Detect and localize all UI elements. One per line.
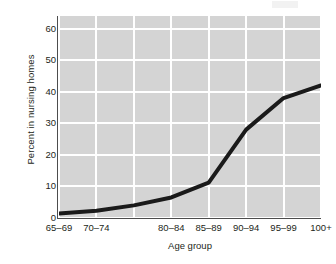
y-tick-label: 30 bbox=[28, 118, 56, 128]
y-tick-label: 20 bbox=[28, 150, 56, 160]
x-tick-label: 100+ bbox=[291, 222, 336, 234]
y-tick-label: 10 bbox=[28, 181, 56, 191]
x-axis-title: Age group bbox=[59, 240, 321, 251]
x-axis-tick-labels: 65–6970–7480–8485–8990–9495–99100+ bbox=[59, 222, 321, 238]
x-axis-line bbox=[57, 218, 321, 219]
chart-figure: Percent in nursing homes 0102030405060 6… bbox=[0, 0, 336, 264]
y-axis-line bbox=[57, 16, 58, 219]
y-tick-label: 50 bbox=[28, 55, 56, 65]
y-tick-label: 60 bbox=[28, 24, 56, 34]
line-series bbox=[59, 16, 321, 218]
scan-artifact bbox=[272, 1, 298, 8]
plot-area bbox=[59, 16, 321, 218]
x-tick-label: 70–74 bbox=[66, 222, 126, 234]
series-polyline bbox=[59, 85, 321, 213]
y-tick-label: 40 bbox=[28, 87, 56, 97]
